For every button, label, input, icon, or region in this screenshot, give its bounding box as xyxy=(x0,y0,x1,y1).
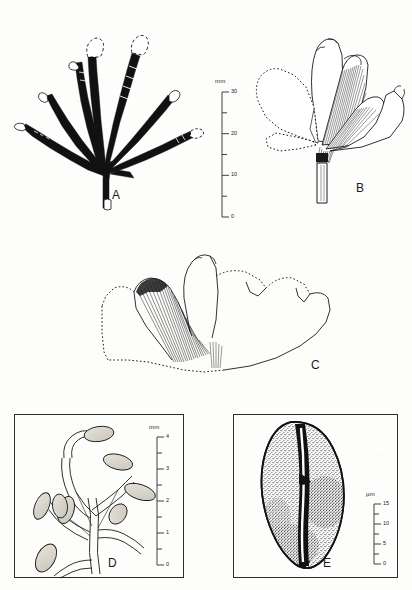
scale-tick-e-15: 15 xyxy=(383,501,389,507)
scale-tick-e-0: 0 xyxy=(383,561,386,567)
figure-plate: A mm 30 20 10 0 xyxy=(0,0,412,590)
scale-axis-e xyxy=(374,504,381,564)
scale-tick-e-10: 10 xyxy=(383,521,389,527)
scale-tick-e-5: 5 xyxy=(383,541,386,547)
